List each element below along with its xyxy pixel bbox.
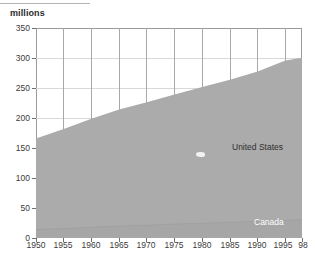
y-tick-label: 300 [0, 54, 30, 63]
header-divider [0, 3, 90, 4]
y-tick-mark [32, 148, 36, 149]
x-tick-label: 98 [288, 241, 315, 250]
image-artifact [196, 152, 205, 157]
series-label-united-states: United States [232, 143, 283, 152]
y-tick-label: 150 [0, 144, 30, 153]
y-tick-mark [32, 118, 36, 119]
y-tick-mark [32, 88, 36, 89]
x-tick-mark [302, 238, 303, 242]
x-tick-label: 1950 [21, 241, 51, 250]
x-tick-mark [146, 238, 147, 242]
y-tick-mark [32, 28, 36, 29]
y-tick-label: 200 [0, 114, 30, 123]
y-tick-label: 50 [0, 204, 30, 213]
x-tick-label: 1975 [159, 241, 189, 250]
x-tick-mark [36, 238, 37, 242]
x-tick-mark [202, 238, 203, 242]
x-tick-label: 1965 [104, 241, 134, 250]
x-tick-label: 1955 [48, 241, 78, 250]
y-tick-label: 350 [0, 24, 30, 33]
y-tick-mark [32, 58, 36, 59]
x-tick-label: 1960 [76, 241, 106, 250]
x-tick-mark [63, 238, 64, 242]
x-tick-label: 1970 [131, 241, 161, 250]
x-tick-label: 1980 [187, 241, 217, 250]
y-tick-label: 250 [0, 84, 30, 93]
x-tick-mark [91, 238, 92, 242]
series-label-canada: Canada [254, 218, 284, 227]
x-tick-mark [230, 238, 231, 242]
stacked-area-series [36, 28, 302, 238]
x-tick-mark [257, 238, 258, 242]
x-tick-mark [285, 238, 286, 242]
x-tick-mark [174, 238, 175, 242]
y-tick-mark [32, 178, 36, 179]
y-tick-mark [32, 208, 36, 209]
x-tick-mark [119, 238, 120, 242]
y-tick-label: 100 [0, 174, 30, 183]
plot-area: United States Canada [36, 28, 302, 238]
x-tick-label: 1985 [215, 241, 245, 250]
axis-units-label: millions [10, 8, 45, 18]
